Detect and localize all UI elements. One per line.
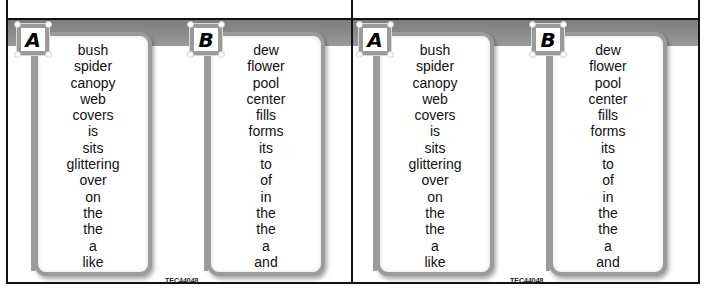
word: dew: [553, 42, 663, 58]
word: pool: [553, 75, 663, 91]
word: like: [380, 254, 490, 270]
word: on: [38, 189, 148, 205]
corner-dot-icon: [187, 51, 194, 58]
word: the: [38, 221, 148, 237]
corner-dot-icon: [14, 21, 21, 28]
word: and: [553, 254, 663, 270]
label-b: B: [194, 28, 218, 51]
word: fills: [553, 107, 663, 123]
word: canopy: [38, 75, 148, 91]
word: covers: [380, 107, 490, 123]
word: of: [553, 172, 663, 188]
corner-dot-icon: [45, 51, 52, 58]
word: web: [380, 91, 490, 107]
word-list-b: dew flower pool center fills forms its t…: [211, 42, 321, 270]
product-code: TEC44048: [510, 277, 543, 284]
word: center: [553, 91, 663, 107]
bottom-border: [6, 282, 700, 284]
word: a: [38, 238, 148, 254]
corner-dot-icon: [387, 21, 394, 28]
corner-dot-icon: [14, 51, 21, 58]
word-panel-2: bush spider canopy web covers is sits gl…: [353, 20, 698, 282]
word: a: [211, 238, 321, 254]
corner-dot-icon: [218, 51, 225, 58]
word: glittering: [38, 156, 148, 172]
word-card-b: dew flower pool center fills forms its t…: [207, 32, 325, 276]
word: glittering: [380, 156, 490, 172]
word-card-a: bush spider canopy web covers is sits gl…: [376, 32, 494, 276]
word: the: [553, 221, 663, 237]
word: fills: [211, 107, 321, 123]
corner-dot-icon: [218, 21, 225, 28]
word: on: [380, 189, 490, 205]
corner-dot-icon: [560, 51, 567, 58]
corner-dot-icon: [356, 51, 363, 58]
right-border: [698, 0, 700, 284]
word: dew: [211, 42, 321, 58]
word: the: [211, 205, 321, 221]
label-a: A: [21, 28, 45, 51]
word: in: [553, 189, 663, 205]
corner-dot-icon: [560, 21, 567, 28]
word: forms: [553, 123, 663, 139]
word: like: [38, 254, 148, 270]
word: forms: [211, 123, 321, 139]
word: is: [38, 123, 148, 139]
corner-dot-icon: [387, 51, 394, 58]
word: the: [553, 205, 663, 221]
word: web: [38, 91, 148, 107]
word: its: [211, 140, 321, 156]
word-card-a: bush spider canopy web covers is sits gl…: [34, 32, 152, 276]
top-blank-strip: [6, 0, 700, 20]
label-post-b: [204, 56, 208, 271]
label-a-badge: A: [358, 23, 392, 56]
label-b-badge: B: [189, 23, 223, 56]
word-card-b: dew flower pool center fills forms its t…: [549, 32, 667, 276]
word: center: [211, 91, 321, 107]
word: flower: [211, 58, 321, 74]
label-b-badge: B: [531, 23, 565, 56]
word: bush: [38, 42, 148, 58]
word: the: [380, 205, 490, 221]
label-post-b: [546, 56, 550, 271]
label-a-badge: A: [16, 23, 50, 56]
product-code: TEC44048: [165, 277, 198, 284]
word-panel-1: bush spider canopy web covers is sits gl…: [8, 20, 353, 282]
word: a: [553, 238, 663, 254]
word: in: [211, 189, 321, 205]
label-post-a: [31, 56, 35, 271]
word: pool: [211, 75, 321, 91]
word: the: [380, 221, 490, 237]
word: over: [380, 172, 490, 188]
word-list-b: dew flower pool center fills forms its t…: [553, 42, 663, 270]
word: of: [211, 172, 321, 188]
corner-dot-icon: [529, 21, 536, 28]
word-list-a: bush spider canopy web covers is sits gl…: [380, 42, 490, 270]
word: sits: [38, 140, 148, 156]
label-b: B: [536, 28, 560, 51]
label-a: A: [363, 28, 387, 51]
word: bush: [380, 42, 490, 58]
word: over: [38, 172, 148, 188]
word: a: [380, 238, 490, 254]
word: the: [211, 221, 321, 237]
word: to: [553, 156, 663, 172]
word: covers: [38, 107, 148, 123]
word: and: [211, 254, 321, 270]
label-post-a: [373, 56, 377, 271]
word: is: [380, 123, 490, 139]
corner-dot-icon: [45, 21, 52, 28]
word: flower: [553, 58, 663, 74]
corner-dot-icon: [529, 51, 536, 58]
word: spider: [38, 58, 148, 74]
corner-dot-icon: [356, 21, 363, 28]
word: sits: [380, 140, 490, 156]
word: the: [38, 205, 148, 221]
word: its: [553, 140, 663, 156]
corner-dot-icon: [187, 21, 194, 28]
word: to: [211, 156, 321, 172]
word-list-a: bush spider canopy web covers is sits gl…: [38, 42, 148, 270]
word: spider: [380, 58, 490, 74]
word: canopy: [380, 75, 490, 91]
